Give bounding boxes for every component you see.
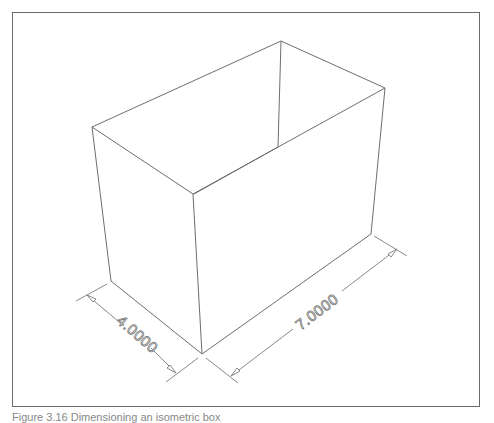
edge-vertical-front — [193, 194, 202, 354]
extension-line-right-a — [206, 358, 238, 383]
figure-caption: Figure 3.16 Dimensioning an isometric bo… — [12, 411, 221, 423]
dimension-line-right-1 — [231, 329, 293, 376]
box-edges — [92, 41, 385, 354]
dimension-length: 7.0000 — [206, 236, 407, 383]
arrow-icon — [231, 368, 240, 376]
edge-bottom-front-right — [202, 234, 371, 354]
arrow-icon — [167, 365, 176, 373]
arrow-icon — [87, 295, 96, 302]
edge-top-left-back — [92, 41, 281, 127]
dimension-label-width: 4.0000 — [114, 311, 162, 356]
dimension-label-length: 7.0000 — [292, 290, 341, 333]
edge-top-front-left — [92, 127, 193, 194]
edge-vertical-back — [278, 41, 281, 147]
edge-vertical-left — [92, 127, 111, 281]
dimension-width: 4.0000 — [76, 284, 198, 382]
edge-top-back-right — [281, 41, 385, 88]
edge-vertical-right — [371, 88, 385, 234]
arrow-icon — [388, 249, 397, 257]
edge-inner-back-right — [194, 147, 278, 194]
